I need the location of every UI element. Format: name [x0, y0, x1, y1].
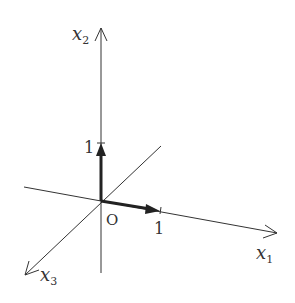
coordinate-diagram: x2 x1 x3 1 1 O [0, 0, 295, 303]
axes-svg: x2 x1 x3 1 1 O [0, 0, 295, 303]
vector-arrowhead-icon [145, 204, 160, 214]
origin-label: O [106, 211, 118, 229]
unit-vector-x2 [96, 143, 106, 201]
x3-axis [25, 146, 161, 275]
x3-axis-label: x3 [40, 264, 57, 288]
vector-arrowhead-icon [96, 143, 106, 156]
x1-tick-label: 1 [154, 219, 164, 238]
x2-axis-label: x2 [72, 23, 89, 47]
x1-axis-label: x1 [256, 242, 273, 266]
x2-tick-label: 1 [84, 138, 94, 157]
